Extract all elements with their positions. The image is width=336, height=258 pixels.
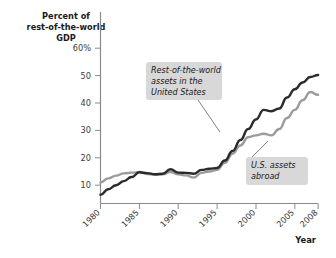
y-tick-label-50: 50 bbox=[81, 71, 91, 81]
x-tick-label-1980: 1980 bbox=[80, 207, 102, 229]
rest-of-world-annotation: Rest-of-the-world assets in the United S… bbox=[146, 62, 222, 100]
x-axis-title: Year bbox=[294, 235, 317, 245]
y-axis-title-line-2: rest-of-the-world bbox=[27, 22, 106, 32]
chart-screenshot: Percent of rest-of-the-world GDP 10 20 3… bbox=[0, 0, 336, 258]
y-axis-title-line-1: Percent of bbox=[42, 11, 90, 21]
rest-of-world-annotation-line-1: Rest-of-the-world bbox=[151, 65, 222, 75]
y-axis-title-line-3: GDP bbox=[56, 33, 76, 43]
y-tick-label-10: 10 bbox=[81, 180, 91, 190]
x-tick-label-2000: 2000 bbox=[236, 207, 258, 229]
annotation-leader-rest-of-world bbox=[198, 100, 220, 132]
x-tick-label-2005: 2005 bbox=[274, 207, 296, 229]
us-assets-annotation-line-2: abroad bbox=[251, 171, 280, 181]
y-tick-label-60: 60% bbox=[73, 43, 91, 53]
rest-of-world-annotation-line-3: United States bbox=[151, 87, 207, 97]
x-axis-ticks: 1980 1985 1990 1995 2000 2005 2008 bbox=[80, 204, 319, 230]
x-tick-label-1985: 1985 bbox=[119, 207, 141, 229]
y-tick-label-20: 20 bbox=[81, 153, 91, 163]
x-tick-label-1995: 1995 bbox=[197, 207, 219, 229]
x-tick-label-2008: 2008 bbox=[298, 207, 320, 229]
rest-of-world-annotation-line-2: assets in the bbox=[151, 76, 203, 86]
annotation-leader-us-assets bbox=[252, 141, 268, 157]
x-tick-label-1990: 1990 bbox=[158, 207, 180, 229]
us-assets-annotation: U.S. assets abroad bbox=[246, 157, 308, 185]
line-chart: Percent of rest-of-the-world GDP 10 20 3… bbox=[0, 0, 336, 258]
y-axis-ticks: 10 20 30 40 50 60% bbox=[73, 43, 101, 190]
y-axis-title: Percent of rest-of-the-world GDP bbox=[27, 11, 106, 43]
y-tick-label-30: 30 bbox=[81, 125, 91, 135]
us-assets-annotation-line-1: U.S. assets bbox=[251, 160, 296, 170]
y-tick-label-40: 40 bbox=[81, 98, 91, 108]
